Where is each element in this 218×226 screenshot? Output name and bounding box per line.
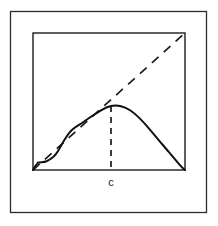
figure-diagram: c — [0, 0, 218, 226]
axis-label-c: c — [108, 176, 114, 188]
figure-container: c — [0, 0, 218, 226]
